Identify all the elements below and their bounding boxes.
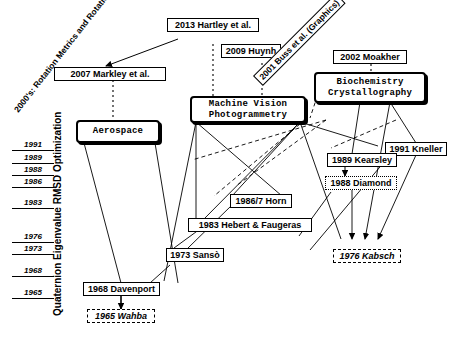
edge-mv-horn-a (196, 122, 282, 196)
edge-dashed-biochem-horn (236, 120, 326, 186)
timeline-rule (12, 254, 54, 255)
timeline-rule (12, 276, 54, 277)
timeline-year: 1973 (16, 244, 50, 253)
timeline-year: 1983 (16, 198, 50, 207)
timeline-year: 1976 (16, 232, 50, 241)
timeline-year: 1989 (16, 153, 50, 162)
node-kearsley[interactable]: 1989 Kearsley (327, 153, 397, 167)
node-diamond[interactable]: 1988 Diamond (325, 176, 397, 190)
timeline-rule (12, 150, 54, 151)
edge-mv-horn-b (232, 122, 300, 196)
node-moakher[interactable]: 2002 Moakher (333, 50, 407, 64)
node-wahba[interactable]: 1965 Wahba (87, 309, 155, 323)
timeline-year: 1968 (16, 266, 50, 275)
timeline-rule (12, 187, 54, 188)
node-aerospace[interactable]: Aerospace (76, 120, 160, 143)
node-markley[interactable]: 2007 Markley et al. (54, 67, 166, 81)
edge-aerospace-davenport-right (155, 143, 178, 283)
edge-dashed-mv-horn (214, 124, 300, 196)
node-buss[interactable]: 2001 Buss et al. (Graphics) (253, 76, 370, 90)
timeline-rule (12, 163, 54, 164)
edge-kneller-kabsch (378, 155, 416, 239)
edge-biochem-kabsch (365, 102, 390, 239)
axis-caption: Quaternion Eigenvalue RMSD Optimization (52, 112, 63, 316)
mv-line1: Machine Vision (209, 99, 287, 109)
timeline-year: 1988 (16, 165, 50, 174)
node-davenport[interactable]: 1968 Davenport (83, 282, 160, 296)
timeline-rule (12, 242, 54, 243)
timeline-year: 1965 (16, 288, 50, 297)
node-machine-vision-label: Machine Vision Photogrammetry (209, 99, 287, 119)
mv-line2: Photogrammetry (209, 110, 287, 120)
timeline-year: 1991 (16, 140, 50, 149)
node-horn[interactable]: 1986/7 Horn (230, 194, 292, 208)
edge-dashed-biochem-left (192, 120, 326, 160)
node-hebert[interactable]: 1983 Hebert & Faugeras (188, 218, 312, 232)
node-machine-vision[interactable]: Machine Vision Photogrammetry (190, 96, 306, 123)
timeline-rule (12, 208, 54, 209)
edge-kneller-down (310, 155, 390, 250)
diagram-canvas: 2000's: Rotation Metrics and Rotation Av… (0, 0, 469, 337)
edge-sanso-davenport (150, 265, 170, 283)
era-label-text: 2000's: Rotation Metrics and Rotation Av… (12, 0, 140, 114)
era-label-2000s: 2000's: Rotation Metrics and Rotation Av… (12, 0, 140, 114)
edge-biochem-kneller (390, 102, 416, 143)
edge-aerospace-davenport-left (84, 143, 121, 283)
edge-hartley-markley (106, 39, 178, 66)
edge-mv-kneller (300, 122, 378, 146)
edge-biochem-kearsley (352, 102, 360, 154)
node-hartley[interactable]: 2013 Hartley et al. (167, 18, 259, 32)
timeline-year: 1986 (16, 177, 50, 186)
node-kabsch[interactable]: 1976 Kabsch (333, 249, 401, 263)
timeline-rule (12, 298, 54, 299)
node-sanso[interactable]: 1973 Sansò (166, 248, 224, 262)
timeline-rule (12, 175, 54, 176)
node-aerospace-label: Aerospace (93, 126, 143, 136)
